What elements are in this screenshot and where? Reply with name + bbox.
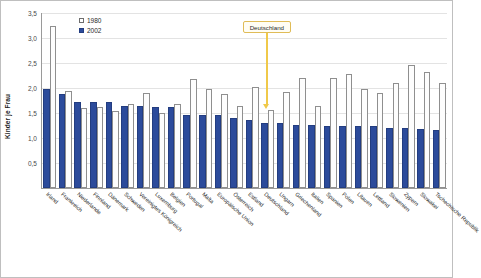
bar-1980 <box>424 72 431 188</box>
bar-group <box>120 13 136 188</box>
bar-1980 <box>112 111 119 189</box>
bar-group <box>135 13 151 188</box>
bar-group <box>104 13 120 188</box>
bar-group <box>369 13 385 188</box>
x-axis-label-cell: Slowakei <box>415 189 431 278</box>
x-axis-label-cell: Estland <box>244 189 260 278</box>
annotation-arrow-line <box>266 33 268 104</box>
bar-1980 <box>408 65 415 188</box>
bar-group <box>167 13 183 188</box>
bar-group <box>229 13 245 188</box>
x-axis-label-cell: Spanien <box>321 189 337 278</box>
bar-group <box>245 13 261 188</box>
y-axis-tick-label: 1,5 <box>28 110 37 117</box>
x-axis-label-cell: Belgien <box>166 189 182 278</box>
x-axis-label-cell: Italien <box>306 189 322 278</box>
x-axis-label-cell: Luxemburg <box>150 189 166 278</box>
bar-1980 <box>50 26 57 189</box>
x-axis-label-cell: Polen <box>337 189 353 278</box>
x-axis-label-cell: Litauen <box>353 189 369 278</box>
bar-group <box>291 13 307 188</box>
x-axis-tick-label: Tschechische Republik <box>434 191 480 234</box>
legend: 1980 2002 <box>79 15 101 35</box>
x-axis-label-cell: Deutschland <box>259 189 275 278</box>
y-axis-tick-label: 1,0 <box>28 135 37 142</box>
y-axis-tick-label: 3,5 <box>28 10 37 17</box>
x-axis-label-cell: Dänemark <box>103 189 119 278</box>
legend-swatch-2002-icon <box>79 28 84 33</box>
bar-1980 <box>439 83 446 188</box>
bar-group <box>400 13 416 188</box>
x-axis-label-cell: Niederlande <box>72 189 88 278</box>
bar-group <box>151 13 167 188</box>
bar-1980 <box>252 87 259 188</box>
x-axis-label-cell: Vereinigtes Königreich <box>134 189 150 278</box>
x-axis-label-cell: Slowenien <box>384 189 400 278</box>
bar-group <box>385 13 401 188</box>
x-axis-label-cell: Lettland <box>368 189 384 278</box>
bar-group <box>182 13 198 188</box>
x-axis-label-cell: Irland <box>41 189 57 278</box>
legend-item-1980: 1980 <box>79 15 101 25</box>
bar-1980 <box>315 106 322 188</box>
annotation-label: Deutschland <box>243 21 291 33</box>
bar-group <box>307 13 323 188</box>
x-axis-label-cell: Portugal <box>181 189 197 278</box>
x-axis-label-cell: Frankreich <box>57 189 73 278</box>
x-axis-label-cell: Malta <box>197 189 213 278</box>
y-axis-tick-label: 2,5 <box>28 60 37 67</box>
x-axis-label-cell: Ungarn <box>275 189 291 278</box>
bar-1980 <box>346 74 353 188</box>
bar-1980 <box>143 93 150 188</box>
bar-group <box>260 13 276 188</box>
y-axis-tick-label: 2,0 <box>28 85 37 92</box>
bar-1980 <box>190 79 197 188</box>
x-axis-labels: IrlandFrankreichNiederlandeFinnlandDänem… <box>41 189 446 278</box>
bar-series-group <box>42 13 447 188</box>
bar-group <box>42 13 58 188</box>
bar-1980 <box>330 78 337 188</box>
y-axis-tick-label: 0,5 <box>28 160 37 167</box>
bar-group <box>354 13 370 188</box>
x-axis-label-cell: Schweden <box>119 189 135 278</box>
x-axis-label-cell: Österreich <box>228 189 244 278</box>
annotation-arrow-head-icon <box>263 104 269 109</box>
bar-1980 <box>221 94 228 188</box>
bar-1980 <box>174 104 181 188</box>
x-axis-label-cell: Finnland <box>88 189 104 278</box>
bar-group <box>322 13 338 188</box>
bar-group <box>213 13 229 188</box>
bar-1980 <box>159 113 166 188</box>
bar-1980 <box>97 107 104 189</box>
bar-1980 <box>377 93 384 188</box>
bar-1980 <box>283 92 290 188</box>
legend-item-2002: 2002 <box>79 25 101 35</box>
bar-group <box>276 13 292 188</box>
bar-group <box>58 13 74 188</box>
x-axis-label-cell: Griechenland <box>290 189 306 278</box>
bar-group <box>416 13 432 188</box>
bar-group <box>198 13 214 188</box>
legend-label-1980: 1980 <box>87 17 101 24</box>
bar-group <box>89 13 105 188</box>
bar-1980 <box>81 108 88 188</box>
legend-label-2002: 2002 <box>87 27 101 34</box>
bar-group <box>73 13 89 188</box>
y-axis-tick-label: 3,0 <box>28 35 37 42</box>
x-axis-label-cell: Tschechische Republik <box>430 189 446 278</box>
bar-1980 <box>361 89 368 189</box>
bar-group <box>338 13 354 188</box>
y-axis-title-label: Kinder je Frau <box>5 93 12 138</box>
annotation-deutschland: Deutschland <box>243 21 291 33</box>
bar-1980 <box>128 104 135 188</box>
legend-swatch-1980-icon <box>79 18 84 23</box>
bar-1980 <box>393 83 400 189</box>
x-axis-label-cell: Zypern <box>399 189 415 278</box>
bar-group <box>431 13 447 188</box>
bar-1980 <box>299 78 306 189</box>
x-axis-label-cell: Europäische Union <box>212 189 228 278</box>
bar-1980 <box>206 89 213 189</box>
bar-1980 <box>268 110 275 188</box>
plot-area <box>41 13 447 189</box>
